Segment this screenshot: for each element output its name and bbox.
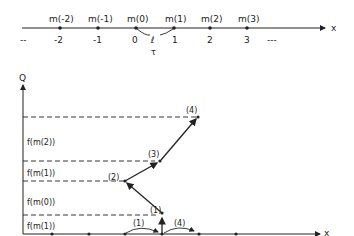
step-label-4: (4) (186, 106, 197, 115)
point-m-minus-2: m(-2) -2 (49, 14, 74, 45)
interval-label-f-m0: f(m(0)) (27, 198, 55, 207)
svg-text:3: 3 (244, 35, 250, 45)
point-m-2: m(2) 2 (201, 14, 223, 45)
svg-text:m(-2): m(-2) (49, 14, 74, 24)
svg-text:m(2): m(2) (201, 14, 223, 24)
x-axis-label: x (324, 228, 330, 236)
top-x-axis-label: x (331, 23, 337, 33)
svg-text:2: 2 (207, 35, 213, 45)
interval-label-f-m1: f(m(1)) (27, 169, 55, 178)
right-ellipsis: --- (267, 35, 277, 45)
link-curve-left (137, 29, 150, 35)
diagram-canvas: x m(-2) -2 m(-1) -1 m(0) 0 m(1) 1 m(2) 2 (0, 0, 354, 236)
arc-label-4: (4) (174, 219, 185, 228)
svg-text:-2: -2 (54, 35, 63, 45)
point-m-minus-1: m(-1) -1 (88, 14, 113, 45)
svg-text:m(0): m(0) (127, 14, 149, 24)
top-number-line: x m(-2) -2 m(-1) -1 m(0) 0 m(1) 1 m(2) 2 (20, 14, 337, 57)
step-label-2: (2) (108, 173, 119, 182)
svg-text:m(3): m(3) (238, 14, 260, 24)
link-subscript: τ (151, 48, 156, 57)
svg-text:m(-1): m(-1) (88, 14, 113, 24)
link-symbol: ℓ (150, 35, 155, 45)
point-m-3: m(3) 3 (238, 14, 260, 45)
arc-label-1: (1) (133, 219, 144, 228)
arc-4 (164, 228, 194, 233)
step-label-3: (3) (148, 150, 159, 159)
y-axis-label: Q (19, 73, 26, 83)
svg-text:1: 1 (172, 35, 178, 45)
step-4-arrow (161, 119, 196, 160)
bottom-graph: Q x f(m(2)) f(m(1)) f(m(0)) f(m(1)) (19, 73, 330, 236)
point-m-1: m(1) 1 (165, 14, 187, 45)
interval-label-f-m1-bottom: f(m(1)) (27, 222, 55, 231)
svg-text:m(1): m(1) (165, 14, 187, 24)
step-3-arrow (125, 163, 157, 181)
arc-1 (126, 228, 158, 233)
svg-text:0: 0 (132, 35, 138, 45)
left-ellipsis: -- (20, 35, 27, 45)
step-label-1: (1) (150, 206, 161, 215)
svg-text:-1: -1 (93, 35, 102, 45)
interval-label-f-m2: f(m(2)) (27, 138, 55, 147)
